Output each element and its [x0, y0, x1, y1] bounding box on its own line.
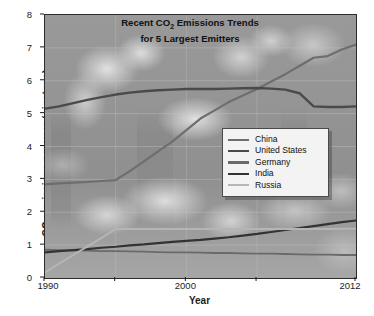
x-tick-1990: 1990: [37, 280, 58, 291]
legend-label: Germany: [255, 157, 290, 168]
chart-title-line2: for 5 Largest Emitters: [140, 33, 239, 44]
chart-legend: ChinaUnited StatesGermanyIndiaRussia: [222, 128, 329, 197]
legend-label: Russia: [255, 180, 281, 191]
legend-swatch-icon: [228, 161, 249, 163]
legend-swatch-icon: [228, 184, 249, 186]
legend-swatch-icon: [228, 139, 249, 141]
legend-item-germany: Germany: [228, 157, 322, 168]
legend-label: China: [255, 134, 277, 145]
chart-figure: 012345678 CO2 emissions per year (gigato…: [0, 0, 374, 316]
x-tick-2012: 2012: [339, 280, 360, 291]
legend-item-united-states: United States: [228, 145, 322, 156]
legend-item-china: China: [228, 134, 322, 145]
chart-title: Recent CO2 Emissions Trends for 5 Larges…: [70, 17, 310, 46]
legend-item-india: India: [228, 168, 322, 179]
legend-label: United States: [255, 145, 307, 156]
legend-swatch-icon: [228, 173, 249, 175]
legend-label: India: [255, 168, 274, 179]
chart-title-line1-rest: Emissions Trends: [174, 17, 259, 28]
x-axis-label: Year: [44, 295, 355, 306]
chart-title-line1-pre: Recent CO: [121, 17, 170, 28]
legend-swatch-icon: [228, 150, 249, 152]
x-tick-2000: 2000: [175, 280, 196, 291]
legend-item-russia: Russia: [228, 180, 322, 191]
